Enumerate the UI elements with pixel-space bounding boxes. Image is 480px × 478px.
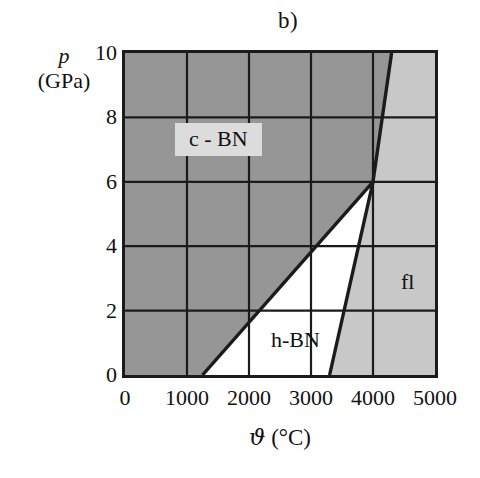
y-tick-label-6: 6	[77, 171, 117, 193]
x-axis-label: ϑ (°C)	[122, 424, 438, 451]
region-label-fl: fl	[401, 271, 414, 293]
region-label-c-bn: c - BN	[175, 123, 262, 156]
panel-title-text: b)	[278, 8, 298, 33]
y-tick-label-0: 0	[77, 364, 117, 386]
y-axis-unit: (GPa)	[16, 69, 112, 94]
x-axis-unit: (°C)	[271, 425, 311, 450]
x-tick-label-5000: 5000	[390, 387, 480, 409]
region-label-h-bn: h-BN	[271, 329, 320, 351]
y-tick-label-4: 4	[77, 235, 117, 257]
y-tick-label-8: 8	[77, 106, 117, 128]
panel-title: b)	[0, 8, 480, 34]
phase-diagram-figure: b) p (GPa) ϑ (°C) 0 2 4 6 8 10 0 1000 20…	[0, 0, 480, 478]
x-axis-symbol: ϑ	[249, 424, 265, 450]
y-tick-label-2: 2	[77, 300, 117, 322]
y-tick-label-10: 10	[77, 42, 117, 64]
